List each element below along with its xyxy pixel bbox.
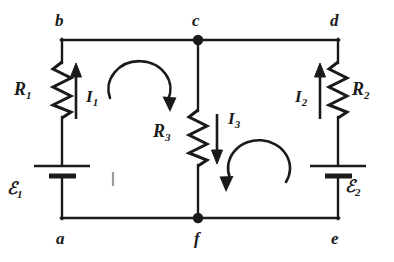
current-arrow-I3 [212,114,223,164]
resistor-label-R2-symbol: R [352,79,364,99]
resistor-label-R1: R1 [14,80,32,98]
resistor-label-R1-subscript: 1 [26,89,32,101]
resistor-label-R2-subscript: 2 [364,89,370,101]
current-arrow-I1 [71,63,82,119]
resistor-symbol-R2 [329,62,347,118]
current-label-I1: I1 [86,88,98,105]
node-label-f: f [194,230,200,247]
resistor-label-R1-symbol: R [14,79,26,99]
node-label-b: b [55,12,64,29]
current-arrow-I2 [315,63,326,119]
node-label-e: e [331,230,339,247]
current-label-I3: I3 [228,110,240,127]
current-label-I2-subscript: 2 [302,96,308,108]
battery-label-emf1: ℰ1 [7,180,23,197]
junction-dot-f [193,213,203,223]
loop-arrow-right-counterclockwise [220,140,291,192]
resistor-label-R3-symbol: R [153,121,165,141]
current-label-I2: I2 [295,88,307,105]
node-label-c: c [192,12,200,29]
battery-label-emf1-subscript: 1 [17,188,23,200]
current-label-I2-symbol: I [295,87,302,106]
resistor-symbol-R1 [53,62,71,118]
battery-symbols [34,166,366,176]
current-label-I3-subscript: 3 [235,118,241,130]
circuit-diagram-figure: b c d a f e R1 R3 R2 ℰ1 ℰ2 I1 I3 I2 [0,0,394,262]
current-label-I3-symbol: I [228,109,235,128]
loop-arrow-left-clockwise [108,61,176,112]
resistor-symbols [53,62,347,166]
resistor-label-R3: R3 [153,122,171,140]
resistor-symbol-R3 [189,110,207,166]
node-label-a: a [56,230,65,247]
battery-label-emf2: ℰ2 [345,178,361,195]
battery-label-emf1-symbol: ℰ [7,178,17,198]
circuit-schematic-svg [0,0,394,262]
resistor-label-R3-subscript: 3 [165,131,171,143]
current-label-I1-subscript: 1 [93,96,99,108]
junction-dot-c [193,35,203,45]
current-label-I1-symbol: I [86,87,93,106]
battery-label-emf2-symbol: ℰ [345,176,355,196]
node-label-d: d [330,12,339,29]
resistor-label-R2: R2 [352,80,370,98]
battery-label-emf2-subscript: 2 [355,186,361,198]
loop-direction-arrows [108,61,290,192]
